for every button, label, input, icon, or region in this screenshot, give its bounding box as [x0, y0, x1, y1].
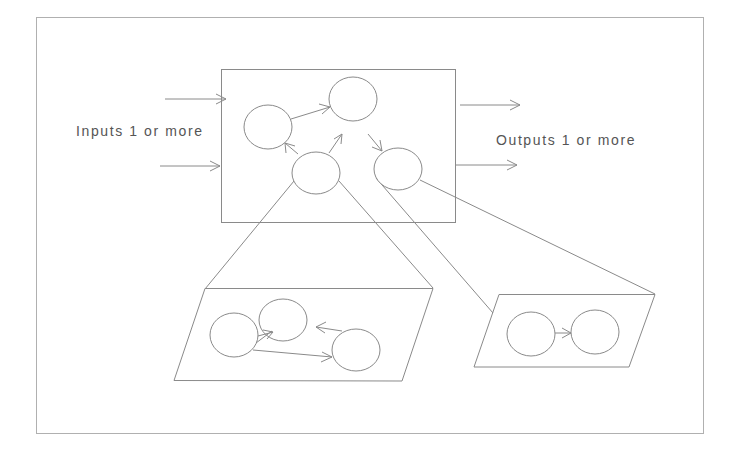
edge-c-to-b	[329, 134, 342, 153]
subnet-right-panel	[474, 295, 655, 368]
outer-frame	[37, 18, 704, 434]
output-arrow	[456, 160, 517, 170]
subnet-right-node-1	[507, 312, 555, 356]
inputs-label: Inputs 1 or more	[76, 123, 204, 139]
node-c	[292, 152, 340, 194]
edge-l3-to-l2	[316, 322, 342, 333]
edge-c-to-a	[285, 143, 298, 154]
input-arrow	[160, 161, 220, 171]
edge-r1-to-r2	[555, 328, 571, 338]
node-b	[329, 77, 377, 121]
expansion-lines-node-d	[376, 178, 655, 313]
edge-l1-to-l3	[253, 350, 332, 362]
outputs-label: Outputs 1 or more	[496, 132, 636, 148]
subnet-left-node-2	[259, 299, 307, 341]
subnet-left-node-1	[210, 313, 258, 357]
expansion-lines-node-c	[205, 181, 433, 289]
edge-b-to-d	[368, 134, 382, 151]
input-arrow	[165, 94, 226, 104]
subnet-left-node-3	[332, 329, 380, 371]
node-a	[244, 105, 292, 149]
node-d	[374, 148, 422, 190]
edge-a-to-b	[291, 104, 330, 119]
subnet-right-node-2	[571, 310, 619, 354]
output-arrow	[460, 100, 520, 110]
hierarchical-network-diagram: Inputs 1 or more Outputs 1 or more	[0, 0, 733, 456]
